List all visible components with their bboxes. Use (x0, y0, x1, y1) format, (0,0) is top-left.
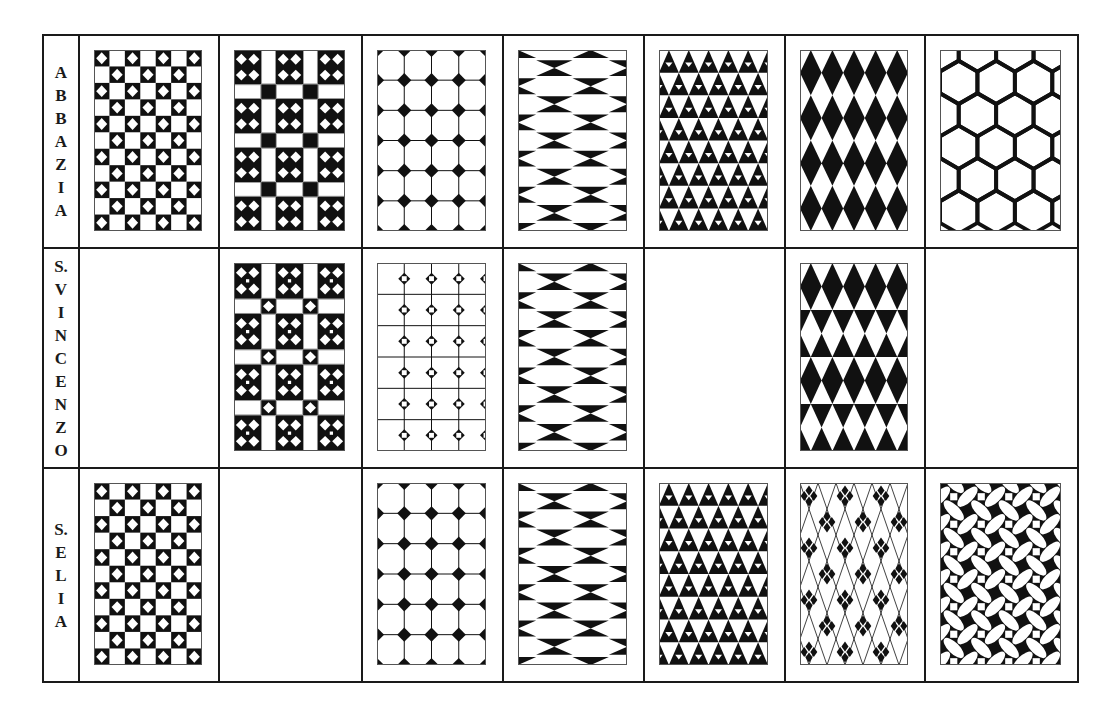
label-letter: C (55, 347, 67, 370)
tile-pattern-image (940, 483, 1061, 665)
pattern-cell-banded-harlequin (785, 248, 925, 468)
pattern-cell-checker-diamonds (79, 468, 219, 682)
pattern-cell-hexagon-lens-outline (925, 35, 1078, 248)
tile-pattern-image (518, 483, 627, 665)
pattern-cell-triangles (644, 468, 785, 682)
row-label-text: S.ELIA (44, 518, 78, 633)
empty-cell (219, 468, 362, 682)
site-row-selia: S.ELIA (43, 468, 1078, 682)
pattern-cell-checker-diamonds (79, 35, 219, 248)
tile-pattern-image (659, 483, 768, 665)
label-letter: I (58, 587, 65, 610)
tile-pattern-image (659, 50, 768, 231)
tile-pattern-image (94, 50, 202, 231)
pattern-cell-four-diamond-blocks-squares (219, 35, 362, 248)
pattern-cell-hexagons-hourglass (503, 35, 644, 248)
label-letter: S. (54, 518, 68, 541)
tile-pattern-image (377, 50, 486, 231)
label-letter: S. (54, 255, 68, 278)
pattern-cell-quatrefoil-circles-squares (925, 468, 1078, 682)
tile-pattern-image (518, 50, 627, 231)
tile-pattern-image (800, 263, 908, 451)
tile-pattern-image (800, 483, 908, 665)
tile-pattern-image (377, 263, 486, 451)
label-letter: A (55, 199, 67, 222)
pattern-comparison-table: ABBAZIAS.VINCENZOS.ELIA (42, 34, 1079, 683)
label-letter: I (58, 301, 65, 324)
label-letter: N (55, 393, 67, 416)
label-letter: B (55, 84, 66, 107)
empty-cell (644, 248, 785, 468)
pattern-cell-octagons-ring-nodes (362, 248, 503, 468)
pattern-cell-hexagons-hourglass (503, 248, 644, 468)
pattern-cell-octagons-diamonds (362, 35, 503, 248)
label-letter: A (55, 130, 67, 153)
pattern-cell-harlequin-diamonds (785, 35, 925, 248)
label-letter: E (55, 370, 66, 393)
row-label: ABBAZIA (43, 35, 79, 248)
tile-pattern-image (377, 483, 486, 665)
site-row-abbazia: ABBAZIA (43, 35, 1078, 248)
tile-pattern-image (518, 263, 627, 451)
row-label: S.ELIA (43, 468, 79, 682)
pattern-cell-triangles (644, 35, 785, 248)
site-row-svincenzo: S.VINCENZO (43, 248, 1078, 468)
tile-pattern-image (234, 263, 345, 451)
label-letter: V (55, 278, 67, 301)
row-label: S.VINCENZO (43, 248, 79, 468)
label-letter: Z (55, 153, 66, 176)
pattern-cell-hexagons-hourglass (503, 468, 644, 682)
pattern-cell-four-diamond-blocks-diamonds (219, 248, 362, 468)
empty-cell (79, 248, 219, 468)
tile-pattern-image (940, 50, 1061, 231)
empty-cell (925, 248, 1078, 468)
label-letter: A (55, 610, 67, 633)
label-letter: O (54, 439, 67, 462)
pattern-cell-octagons-diamonds (362, 468, 503, 682)
tile-pattern-image (234, 50, 345, 231)
label-letter: A (55, 61, 67, 84)
tile-pattern-image (94, 483, 202, 665)
row-label-text: ABBAZIA (44, 61, 78, 222)
label-letter: N (55, 324, 67, 347)
pattern-cell-lattice-diamond-clusters (785, 468, 925, 682)
row-label-text: S.VINCENZO (44, 255, 78, 462)
label-letter: I (58, 176, 65, 199)
label-letter: Z (55, 416, 66, 439)
label-letter: E (55, 541, 66, 564)
label-letter: L (55, 564, 66, 587)
label-letter: B (55, 107, 66, 130)
tile-pattern-image (800, 50, 908, 231)
